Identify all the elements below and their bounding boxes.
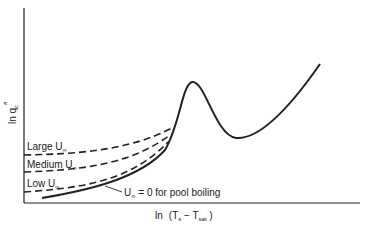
pool-pointer bbox=[105, 186, 122, 192]
x-axis-label: ln(Ts − Tsat ) bbox=[155, 210, 213, 222]
large-label: Large U∞ bbox=[27, 141, 67, 153]
y-axis-label: ln qc″ bbox=[3, 101, 19, 124]
boiling-curve-diagram: Large U∞ Medium U∞ Low U∞ U∞ = 0 for poo… bbox=[0, 0, 369, 227]
low-label: Low U∞ bbox=[27, 178, 60, 190]
medium-label: Medium U∞ bbox=[27, 159, 77, 171]
pool-boiling-curve bbox=[42, 64, 320, 198]
pool-label: U∞ = 0 for pool boiling bbox=[124, 187, 220, 199]
